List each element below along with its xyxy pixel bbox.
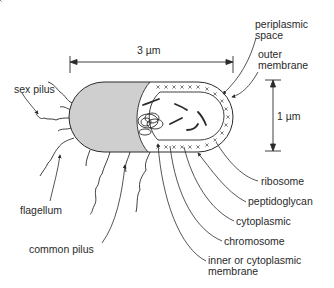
label-cytoplasmic: cytoplasmic — [236, 216, 291, 227]
label-inner-membrane: inner or cytoplasmic membrane — [208, 255, 301, 277]
label-sex-pilus: sex pilus — [14, 84, 55, 95]
label-periplasmic-space: periplasmic space — [255, 19, 308, 41]
label-flagellum: flagellum — [20, 205, 62, 216]
bacterium-body — [69, 82, 233, 152]
label-common-pilus: common pilus — [29, 244, 94, 255]
length-dimension-line — [70, 56, 233, 73]
label-inner-line2: membrane — [208, 266, 301, 277]
label-periplasmic-line2: space — [255, 30, 308, 41]
label-chromosome: chromosome — [224, 236, 285, 247]
label-outer-membrane: outer membrane — [258, 49, 308, 71]
width-label: 1 µm — [277, 111, 301, 122]
chromosome — [138, 113, 163, 135]
label-outer-line2: membrane — [258, 60, 308, 71]
label-ribosome: ribosome — [261, 176, 304, 187]
label-peptidoglycan: peptidoglycan — [248, 196, 313, 207]
length-label: 3 µm — [137, 45, 161, 56]
